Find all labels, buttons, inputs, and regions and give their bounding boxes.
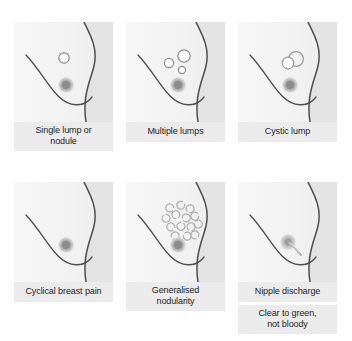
caption-line-2: nodularity: [156, 296, 194, 306]
panel-single-lump-illustration: [14, 22, 113, 122]
panel-multiple-lumps-illustration: [126, 22, 225, 122]
panel-cystic-lump-illustration: [238, 22, 337, 122]
panel-single-lump: Single lump or nodule: [14, 22, 113, 151]
panel-nipple-discharge-secondary-caption: Clear to green, not bloody: [238, 305, 337, 334]
panel-generalised-nodularity-illustration: [126, 182, 225, 282]
secondary-caption-line-1: Clear to green,: [258, 308, 316, 318]
caption-line-1: Single lump or: [35, 125, 91, 135]
caption-line-1: Multiple lumps: [147, 126, 203, 136]
panel-cyclical-breast-pain: Cyclical breast pain: [14, 182, 113, 302]
panel-cystic-lump: Cystic lump: [238, 22, 337, 142]
caption-line-1: Cystic lump: [265, 126, 310, 136]
panel-cyclical-breast-pain-illustration: [14, 182, 113, 282]
caption-line-1: Generalised: [152, 285, 199, 295]
panel-cyclical-breast-pain-caption: Cyclical breast pain: [14, 282, 113, 302]
breast-symptoms-figure: Single lump or nodule: [0, 0, 352, 341]
panel-nipple-discharge: Nipple discharge Clear to green, not blo…: [238, 182, 337, 334]
caption-line-1: Cyclical breast pain: [25, 286, 101, 296]
panel-cystic-lump-caption: Cystic lump: [238, 122, 337, 142]
panel-generalised-nodularity-caption: Generalised nodularity: [126, 282, 225, 311]
panel-single-lump-caption: Single lump or nodule: [14, 122, 113, 151]
secondary-caption-line-2: not bloody: [267, 319, 308, 329]
panel-multiple-lumps: Multiple lumps: [126, 22, 225, 142]
panel-nipple-discharge-illustration: [238, 182, 337, 282]
panel-multiple-lumps-caption: Multiple lumps: [126, 122, 225, 142]
caption-line-2: nodule: [50, 136, 76, 146]
panel-nipple-discharge-caption: Nipple discharge: [238, 282, 337, 302]
caption-line-1: Nipple discharge: [255, 286, 320, 296]
panel-generalised-nodularity: Generalised nodularity: [126, 182, 225, 311]
